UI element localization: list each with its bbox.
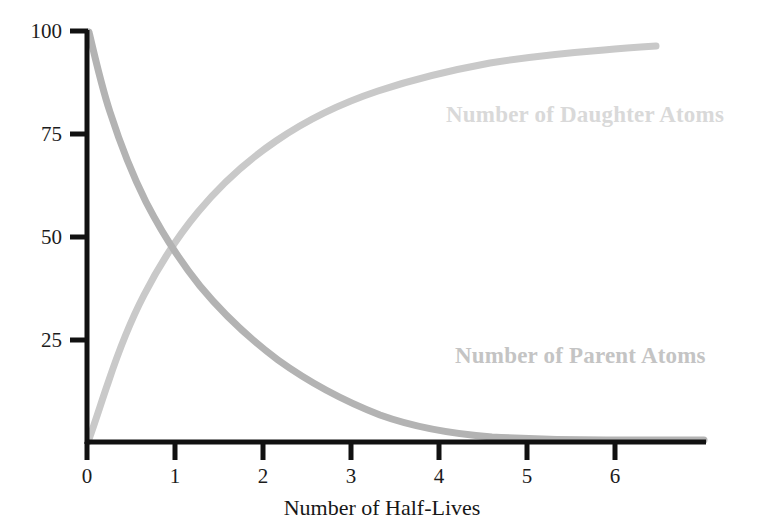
y-axis-tick-label-75: 75 — [0, 124, 62, 145]
parent-atoms-series-label: Number of Parent Atoms — [455, 344, 706, 367]
x-axis-tick-label-3: 3 — [331, 466, 371, 487]
x-axis-tick-label-4: 4 — [419, 466, 459, 487]
x-axis-tick-label-2: 2 — [243, 466, 283, 487]
daughter-atoms-series-label: Number of Daughter Atoms — [446, 103, 724, 126]
y-axis-tick-label-100: 100 — [0, 21, 62, 42]
x-axis-tick-label-5: 5 — [507, 466, 547, 487]
chart-plot-area — [0, 0, 764, 532]
half-life-decay-chart: 100 75 50 25 0 1 2 3 4 5 6 Number of Hal… — [0, 0, 764, 532]
x-axis-tick-label-1: 1 — [155, 466, 195, 487]
y-axis-tick-label-25: 25 — [0, 330, 62, 351]
x-axis-tick-label-6: 6 — [595, 466, 635, 487]
y-axis-tick-label-50: 50 — [0, 227, 62, 248]
x-axis-title: Number of Half-Lives — [232, 497, 532, 519]
x-axis-tick-label-0: 0 — [67, 466, 107, 487]
